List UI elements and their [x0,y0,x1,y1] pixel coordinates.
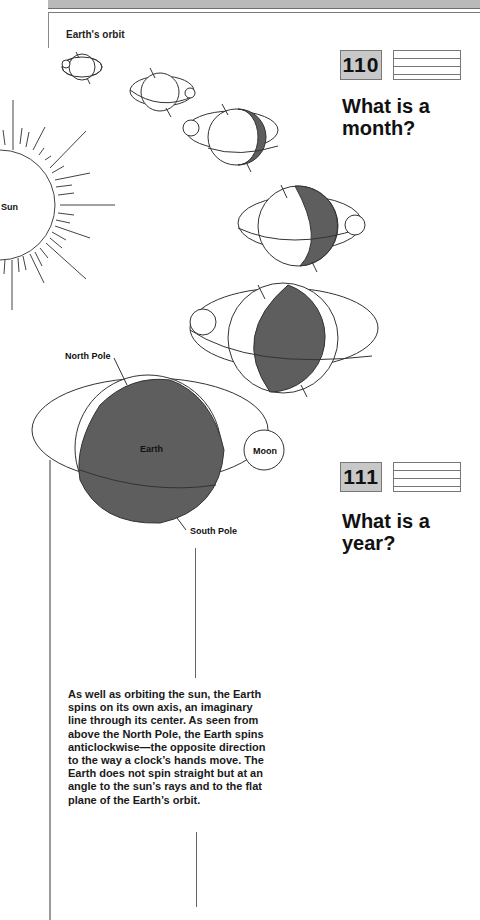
earth-phase-4 [238,185,365,272]
moon-label: Moon [253,446,277,456]
earth-phase-5 [190,283,378,397]
earth-phase-3 [183,104,278,172]
earth-label: Earth [140,444,163,454]
question-title-line1: What is a [342,95,472,117]
south-pole-label: South Pole [190,526,237,536]
body-paragraph: As well as orbiting the sun, the Earth s… [68,688,268,807]
earth-phase-2 [130,68,195,117]
column-rule-upper [195,548,196,678]
question-answer-lines [393,50,461,80]
question-number-badge: 111 [340,462,382,492]
sun-label: Sun [1,202,18,212]
column-rule-lower [196,832,197,907]
question-title-line2: month? [342,117,472,139]
question-title-line2: year? [342,532,472,554]
north-pole-label: North Pole [65,351,111,361]
earth-phase-1 [62,52,102,84]
question-answer-lines [393,462,461,492]
question-title: What is a month? [342,95,472,139]
question-title-line1: What is a [342,510,472,532]
question-title: What is a year? [342,510,472,554]
question-number-badge: 110 [340,50,382,80]
